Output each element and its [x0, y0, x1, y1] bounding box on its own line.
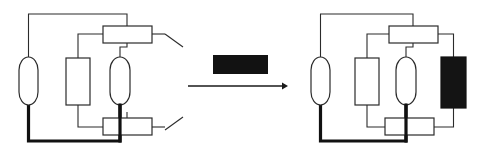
- right-top-rect-to-oval-wire: [406, 43, 413, 57]
- left-oval-component: [19, 57, 38, 105]
- right-middle-rect-bottom-lead: [367, 105, 385, 127]
- right-top-rect-component: [389, 26, 438, 43]
- right-bottom-rect-to-blackrect-wire: [434, 108, 454, 127]
- left-top-switch-blade: [165, 34, 183, 47]
- right-right-oval-component: [396, 57, 416, 105]
- right-bottom-rect-component: [385, 118, 434, 135]
- redacted-black-box: [213, 55, 268, 74]
- left-top-rect-to-oval-wire: [120, 43, 127, 57]
- circuit-diagram-after: [311, 14, 466, 141]
- right-middle-rect-component: [355, 58, 379, 105]
- right-black-rect-component: [441, 57, 466, 108]
- right-top-rect-to-blackrect-wire: [438, 34, 454, 57]
- transition-group: [188, 55, 288, 90]
- figure-canvas: [0, 0, 478, 163]
- left-bottom-rect-component: [103, 118, 152, 135]
- left-top-rect-left-lead: [78, 34, 103, 58]
- left-bottom-switch-blade: [165, 117, 183, 130]
- circuit-diagram-before: [0, 0, 478, 163]
- left-top-rect-component: [103, 26, 152, 43]
- right-top-rect-left-lead: [367, 34, 389, 58]
- right-left-oval-component: [311, 57, 330, 105]
- transition-arrow-head: [282, 83, 288, 90]
- left-circuit-group: [19, 14, 183, 141]
- left-middle-rect-bottom-lead: [78, 105, 103, 127]
- left-middle-rect-component: [66, 58, 90, 105]
- left-right-oval-component: [110, 57, 130, 105]
